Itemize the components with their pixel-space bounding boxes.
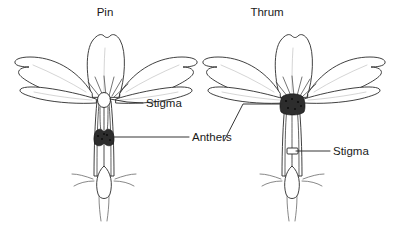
diagram-canvas: Pin Thrum Stigma Anthers Stigma — [0, 0, 399, 227]
thrum-title: Thrum — [250, 6, 283, 18]
pin-stigma — [98, 93, 111, 108]
thrum-anthers-leader-line — [224, 104, 282, 141]
pin-flower-group — [15, 35, 197, 221]
thrum-flower-group — [203, 35, 385, 221]
pin-thrum-flower-diagram: Pin Thrum Stigma Anthers Stigma — [0, 0, 399, 227]
anthers-label: Anthers — [192, 131, 232, 143]
pin-title: Pin — [97, 6, 114, 18]
thrum-anthers — [280, 94, 305, 115]
pin-stigma-label: Stigma — [146, 97, 182, 109]
pin-anthers — [94, 129, 114, 146]
thrum-stigma-label: Stigma — [333, 145, 369, 157]
